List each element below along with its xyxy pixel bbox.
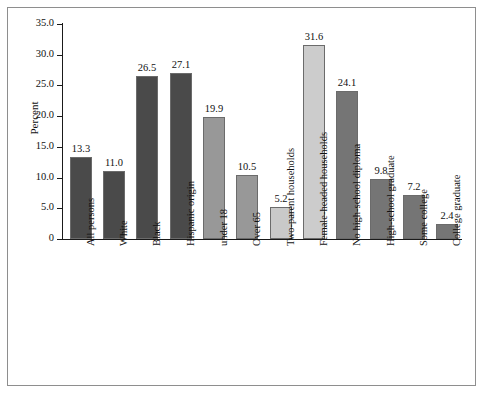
x-axis-category-label: College graduate bbox=[452, 175, 463, 246]
x-axis-category-label: All persons bbox=[86, 198, 97, 246]
x-axis-category-label: Two-parent households bbox=[286, 148, 297, 246]
x-axis-category-label: under 18 bbox=[219, 209, 230, 246]
figure-canvas: Percent 05.010.015.020.025.030.035.0 13.… bbox=[0, 0, 485, 403]
x-axis-category-label: Some college bbox=[419, 189, 430, 246]
x-axis-category-label: Black bbox=[152, 222, 163, 247]
x-axis-category-label: No high-school diploma bbox=[352, 144, 363, 246]
x-axis-category-label: Over 65 bbox=[252, 212, 263, 246]
category-labels-layer: All personsWhiteBlackHispanic originunde… bbox=[0, 0, 485, 403]
x-axis-category-label: Female-headed households bbox=[319, 132, 330, 246]
x-axis-category-label: White bbox=[119, 220, 130, 246]
x-axis-category-label: High-school graduate bbox=[386, 155, 397, 246]
x-axis-category-label: Hispanic origin bbox=[186, 181, 197, 246]
